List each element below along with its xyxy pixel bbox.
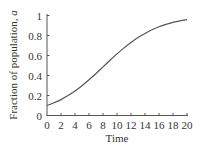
y-tick-label: 0.8: [28, 30, 42, 42]
x-tick-label: 0: [44, 119, 50, 131]
x-tick-label: 2: [58, 119, 64, 131]
x-tick-label: 16: [154, 119, 166, 131]
logistic-curve: [47, 20, 187, 106]
x-tick-label: 14: [140, 119, 152, 131]
plot-area: 02468101214161820 00.20.40.60.81: [28, 10, 193, 132]
x-tick-label: 20: [182, 119, 194, 131]
y-tick-label: 1: [37, 10, 43, 22]
y-ticks: 00.20.40.60.81: [28, 10, 49, 122]
x-axis-label: Time: [106, 132, 129, 144]
x-tick-label: 10: [112, 119, 124, 131]
x-tick-label: 4: [72, 119, 78, 131]
x-tick-label: 12: [126, 119, 137, 131]
x-tick-label: 6: [86, 119, 92, 131]
y-tick-label: 0.6: [28, 50, 42, 62]
y-tick-label: 0.2: [28, 90, 42, 102]
y-tick-label: 0.4: [28, 70, 42, 82]
x-tick-label: 8: [100, 119, 106, 131]
y-tick-label: 0: [37, 110, 43, 122]
logistic-chart: 02468101214161820 00.20.40.60.81 Time Fr…: [0, 0, 202, 147]
y-axis-label: Fraction of population, a: [7, 10, 19, 120]
y-axis-label-variable: a: [7, 10, 19, 16]
y-axis-label-text: Fraction of population,: [7, 16, 19, 120]
x-tick-label: 18: [168, 119, 180, 131]
